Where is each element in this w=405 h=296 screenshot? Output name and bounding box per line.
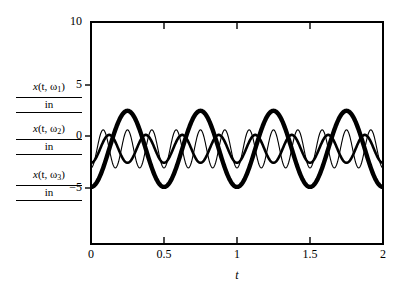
y-axis-label-omega-1-args: (t, ω	[38, 80, 57, 92]
y-axis-label-omega-2: x(t, ω2) in	[14, 122, 84, 155]
fraction-bar-bottom	[16, 112, 82, 113]
x-tick-label-0: 0	[81, 247, 101, 262]
y-axis-label-omega-3-numerator: x(t, ω3)	[14, 168, 84, 185]
y-axis-label-omega-2-denominator: in	[14, 140, 84, 153]
x-axis-title: t	[227, 268, 247, 283]
y-axis-label-omega-1-denominator: in	[14, 98, 84, 111]
x-tick-label-0-5: 0.5	[150, 247, 178, 262]
y-axis-label-omega-2-args: (t, ω	[38, 122, 57, 134]
x-tick-label-1: 1	[227, 247, 247, 262]
y-axis-label-omega-3-paren: )	[61, 168, 65, 180]
y-axis-label-omega-1-paren: )	[61, 80, 65, 92]
y-tick-label-10: 10	[46, 14, 82, 29]
y-axis-label-omega-2-numerator: x(t, ω2)	[14, 122, 84, 139]
y-axis-label-omega-1: x(t, ω1) in	[14, 80, 84, 113]
y-axis-label-omega-3: x(t, ω3) in	[14, 168, 84, 201]
fraction-bar-bottom	[16, 154, 82, 155]
plot-frame	[91, 22, 383, 244]
y-axis-label-omega-3-denominator: in	[14, 186, 84, 199]
y-axis-label-omega-3-args: (t, ω	[38, 168, 57, 180]
y-axis-label-omega-1-numerator: x(t, ω1)	[14, 80, 84, 97]
fraction-bar-bottom	[16, 200, 82, 201]
x-tick-label-2: 2	[373, 247, 393, 262]
x-tick-label-1-5: 1.5	[296, 247, 324, 262]
y-axis-label-omega-2-paren: )	[61, 122, 65, 134]
